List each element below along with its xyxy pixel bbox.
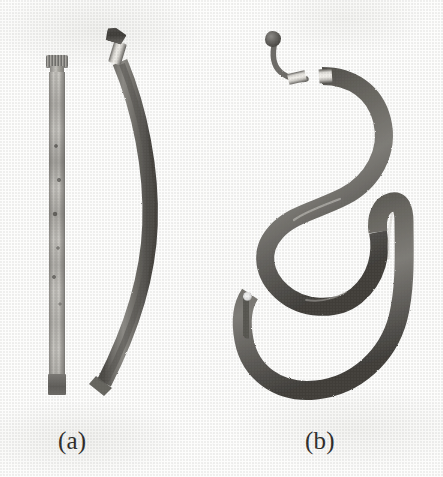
curved-hose-body xyxy=(104,62,150,383)
rod-foot-end xyxy=(48,374,66,395)
serpentine-highlight-upper xyxy=(294,199,340,220)
curved-flexible-hose xyxy=(0,0,443,477)
serpentine-bottom-loop xyxy=(242,202,404,391)
halftone-grain-overlay xyxy=(0,0,443,477)
serpentine-ferrule-outer xyxy=(319,69,333,84)
serpentine-free-end xyxy=(244,300,248,332)
serpentine-highlight-lower xyxy=(306,292,346,301)
serpentine-flexible-hose xyxy=(0,0,443,477)
rod-surface-pitting xyxy=(49,72,65,394)
paper-texture-overlay xyxy=(0,0,443,477)
curved-hose-shading xyxy=(106,64,151,381)
serpentine-ferrule-inner xyxy=(287,70,307,85)
serpentine-end-fitting xyxy=(265,31,281,47)
caption-a: (a) xyxy=(58,428,86,453)
figure-plate: (a) (b) xyxy=(0,0,443,477)
serpentine-end-highlight xyxy=(243,292,252,301)
serpentine-highlight-loop xyxy=(389,214,392,258)
curved-hose-cut-end xyxy=(89,376,112,396)
serpentine-upper-bends xyxy=(265,76,384,307)
caption-b: (b) xyxy=(305,428,335,453)
curved-hose-ferrule xyxy=(108,41,127,66)
